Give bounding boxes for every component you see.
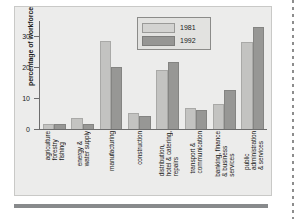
category-label-line: communication [196, 131, 203, 173]
legend-label-1981: 1981 [180, 24, 196, 31]
category-label-line: water supply [83, 131, 90, 166]
category-label-3: construction [125, 131, 153, 195]
bar-1992-3 [139, 116, 150, 129]
y-tick-0 [34, 129, 40, 130]
bar-1992-6 [224, 90, 235, 129]
bar-1981-0 [43, 124, 54, 129]
category-label-line: manufacturing [107, 131, 114, 171]
x-axis-line [39, 129, 267, 130]
bar-1992-1 [83, 124, 94, 129]
category-label-7: publicadministration& services [239, 131, 267, 195]
category-label-5: transport &communication [182, 131, 210, 195]
bar-1992-4 [168, 62, 179, 129]
bar-1981-1 [71, 118, 82, 129]
legend-entry-1992: 1992 [142, 35, 196, 46]
page-edge-dotted-rule [292, 0, 294, 219]
category-label-line: fishing [58, 131, 65, 160]
bar-1992-7 [253, 27, 264, 129]
legend-label-1992: 1992 [180, 37, 196, 44]
category-label-line: hotel & catering, [164, 131, 171, 176]
bar-1992-2 [111, 67, 122, 129]
plot-wrapper: percentage of workforce 0102030 agricult… [15, 7, 273, 197]
category-label-line: & services [256, 131, 263, 170]
category-label-line: administration [249, 131, 256, 170]
category-label-1: energy &water supply [68, 131, 96, 195]
legend-swatch-1981 [142, 23, 175, 33]
category-label-line: energy & [76, 131, 83, 166]
category-label-0: agricultureforestryfishing [40, 131, 68, 195]
bar-1992-0 [54, 124, 65, 129]
bar-1992-5 [196, 110, 207, 129]
bar-1981-6 [213, 104, 224, 129]
bar-1981-2 [100, 41, 111, 129]
category-label-line: services [228, 131, 235, 177]
y-tick-label-30: 30 [10, 33, 30, 40]
y-axis-title: percentage of workforce [27, 0, 34, 95]
category-label-2: manufacturing [97, 131, 125, 195]
category-label-line: transport & [189, 131, 196, 173]
legend-entry-1981: 1981 [142, 22, 196, 33]
legend-swatch-1992 [142, 36, 175, 46]
bar-1981-5 [185, 108, 196, 129]
category-label-line: distribution, [157, 131, 164, 176]
bar-1981-3 [128, 113, 139, 129]
y-tick-label-0: 0 [10, 126, 30, 133]
bar-1981-4 [156, 70, 167, 129]
category-label-line: construction [136, 131, 143, 165]
category-label-4: distribution,hotel & catering,repairs [154, 131, 182, 195]
category-label-6: banking, finance& businessservices [210, 131, 238, 195]
bottom-horizontal-rule [14, 204, 268, 208]
bar-1981-7 [241, 42, 252, 129]
x-axis-category-labels: agricultureforestryfishingenergy &water … [40, 131, 267, 195]
bar-chart-figure: percentage of workforce 0102030 agricult… [14, 6, 272, 196]
chart-legend: 1981 1992 [137, 17, 211, 50]
y-tick-label-20: 20 [10, 64, 30, 71]
category-label-line: public [242, 131, 249, 170]
category-label-line: repairs [171, 131, 178, 176]
y-tick-label-10: 10 [10, 95, 30, 102]
